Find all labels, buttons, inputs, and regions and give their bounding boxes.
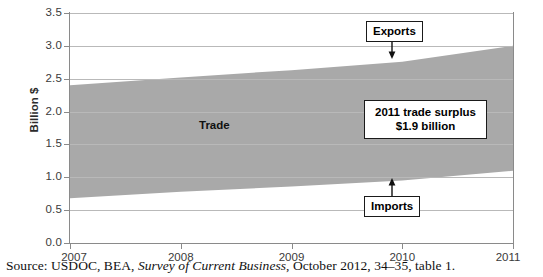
surplus-annotation-line2: $1.9 billion <box>375 119 476 133</box>
imports-annotation-box: Imports <box>364 196 420 217</box>
chart-figure: 3.5 3.0 2.5 2.0 1.5 1.0 0.5 0.0 Billion … <box>0 0 543 277</box>
imports-annotation-label: Imports <box>371 200 413 212</box>
source-prefix: Source: USDOC, BEA, <box>6 258 138 273</box>
exports-annotation-label: Exports <box>373 25 416 37</box>
exports-annotation-box: Exports <box>366 21 423 42</box>
source-publication-title: Survey of Current Business <box>138 258 286 273</box>
trade-surplus-annotation-box: 2011 trade surplus $1.9 billion <box>364 100 487 139</box>
surplus-annotation-line1: 2011 trade surplus <box>375 105 476 119</box>
source-suffix: , October 2012, 34–35, table 1. <box>286 258 455 273</box>
source-caption: Source: USDOC, BEA, Survey of Current Bu… <box>6 258 455 274</box>
